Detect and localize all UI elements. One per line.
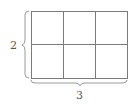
left-brace-icon	[22, 11, 29, 78]
height-label: 2	[10, 39, 17, 52]
width-label: 3	[76, 89, 83, 102]
grid	[32, 12, 128, 79]
bottom-brace-icon	[31, 80, 127, 86]
area-grid-diagram: 2 3	[0, 0, 136, 104]
